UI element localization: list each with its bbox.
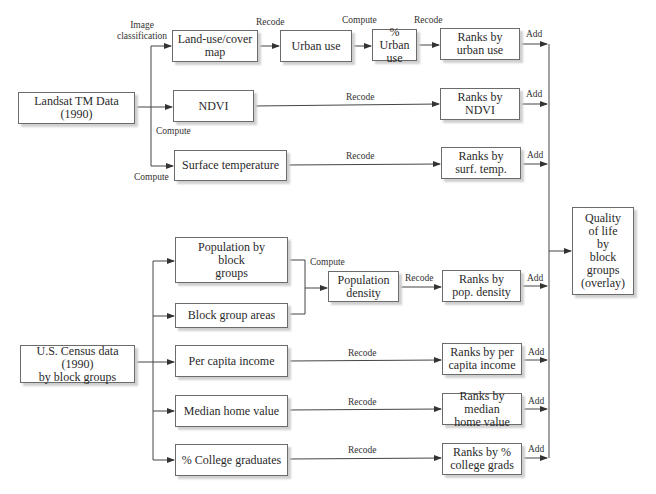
ranks-per-capita-box: Ranks by per capita income <box>442 343 522 375</box>
ranks-per-capita-label: Ranks by per capita income <box>449 346 516 372</box>
edge-label-recode: Recode <box>256 17 285 28</box>
ranks-ndvi-label: Ranks by NDVI <box>458 91 503 117</box>
ranks-urban-use-label: Ranks by urban use <box>457 31 503 57</box>
edge-label-recode: Recode <box>414 15 443 26</box>
per-capita-income-box: Per capita income <box>175 345 288 377</box>
ranks-surface-temp-box: Ranks by surf. temp. <box>441 147 521 179</box>
block-group-areas-box: Block group areas <box>175 303 288 328</box>
edge-label-recode: Recode <box>346 151 375 162</box>
surface-temperature-box: Surface temperature <box>174 150 287 181</box>
quality-of-life-box: Quality of life by block groups (overlay… <box>572 207 634 295</box>
land-use-map-box: Land-use/cover map <box>172 30 258 62</box>
ranks-median-home-label: Ranks by median home value <box>445 390 519 429</box>
ranks-median-home-box: Ranks by median home value <box>442 393 522 425</box>
edge-label-compute: Compute <box>342 15 377 26</box>
edge-label-image-classification: Image classification <box>114 20 170 42</box>
population-density-box: Population density <box>328 271 399 302</box>
college-graduates-box: % College graduates <box>175 444 288 476</box>
college-graduates-label: % College graduates <box>182 454 281 467</box>
urban-use-box: Urban use <box>280 30 352 62</box>
edge-label-compute: Compute <box>156 126 191 137</box>
ranks-college-label: Ranks by % college grads <box>450 446 514 472</box>
ndvi-label: NDVI <box>199 100 229 113</box>
edge-label-recode: Recode <box>348 348 377 359</box>
edge-label-add: Add <box>527 150 543 161</box>
population-by-block-box: Population by block groups <box>175 237 288 283</box>
urban-use-label: Urban use <box>292 40 341 53</box>
connector-lines <box>0 0 656 494</box>
median-home-value-label: Median home value <box>184 405 279 418</box>
median-home-value-box: Median home value <box>175 395 288 427</box>
edge-label-add: Add <box>526 29 542 40</box>
ranks-ndvi-box: Ranks by NDVI <box>440 88 520 120</box>
edge-label-add: Add <box>528 444 544 455</box>
block-group-areas-label: Block group areas <box>188 309 275 322</box>
edge-label-add: Add <box>528 396 544 407</box>
ranks-college-box: Ranks by % college grads <box>442 443 522 475</box>
edge-label-add: Add <box>527 273 543 284</box>
quality-of-life-label: Quality of life by block groups (overlay… <box>581 212 625 290</box>
land-use-map-label: Land-use/cover map <box>178 33 253 59</box>
surface-temperature-label: Surface temperature <box>182 159 279 172</box>
edge-label-recode: Recode <box>348 397 377 408</box>
edge-label-add: Add <box>526 89 542 100</box>
edge-label-recode: Recode <box>405 273 434 284</box>
pct-urban-use-label: % Urban use <box>375 26 414 65</box>
landsat-data-label: Landsat TM Data (1990) <box>21 95 132 121</box>
edge-label-recode: Recode <box>348 445 377 456</box>
ranks-surface-temp-label: Ranks by surf. temp. <box>455 150 507 176</box>
ndvi-box: NDVI <box>173 90 254 122</box>
edge-label-compute: Compute <box>134 172 169 183</box>
landsat-data-box: Landsat TM Data (1990) <box>18 92 135 124</box>
edge-label-recode: Recode <box>346 92 375 103</box>
pct-urban-use-box: % Urban use <box>372 29 417 61</box>
census-data-label: U.S. Census data (1990) by block groups <box>23 345 132 384</box>
ranks-urban-use-box: Ranks by urban use <box>440 28 520 60</box>
census-data-box: U.S. Census data (1990) by block groups <box>20 345 135 383</box>
population-density-label: Population density <box>337 274 389 300</box>
per-capita-income-label: Per capita income <box>189 355 275 368</box>
edge-label-compute: Compute <box>310 257 345 268</box>
edge-label-add: Add <box>528 347 544 358</box>
ranks-pop-density-box: Ranks by pop. density <box>442 270 521 302</box>
ranks-pop-density-label: Ranks by pop. density <box>452 273 511 299</box>
population-by-block-label: Population by block groups <box>198 241 265 280</box>
